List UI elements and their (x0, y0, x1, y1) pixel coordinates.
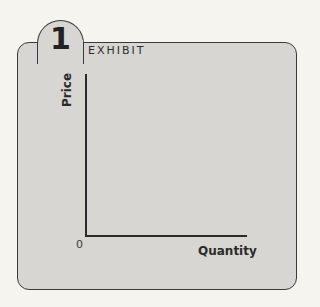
y-axis-line (85, 74, 87, 237)
exhibit-number: 1 (50, 24, 71, 54)
exhibit-label: EXHIBIT (88, 44, 146, 57)
x-axis-line (85, 235, 247, 237)
y-axis-label: Price (60, 75, 74, 107)
x-axis-label: Quantity (198, 244, 257, 258)
origin-label: 0 (76, 238, 83, 251)
